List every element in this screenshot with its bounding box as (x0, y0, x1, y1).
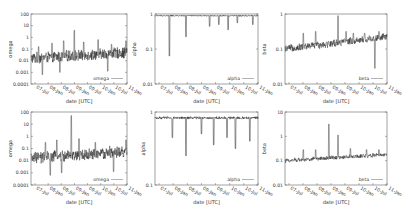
x-tick-label: 10-Jan (360, 186, 375, 198)
y-axis-label: beta (261, 143, 267, 154)
panel-top-alpha: 10.10.0107-Jul08-Jan08-Jul09-Jan09-Jul10… (131, 12, 274, 104)
x-tick-label: 07-Jul (36, 85, 50, 96)
svg-text:beta: beta (359, 76, 370, 81)
y-tick-label: 0.1 (276, 158, 283, 163)
x-tick-label: 09-Jul (346, 186, 360, 197)
panel-top-omega: 1001010.10.010.0010.000107-Jul08-Jan08-J… (7, 12, 143, 104)
svg-text:omega: omega (93, 177, 109, 182)
y-tick-label: 0.1 (276, 47, 283, 52)
svg-text:beta: beta (359, 177, 370, 182)
y-tick-label: 1 (280, 12, 283, 17)
y-tick-label: 1 (280, 134, 283, 139)
x-tick-label: 08-Jan (304, 186, 319, 198)
x-tick-label: 08-Jul (318, 186, 332, 197)
x-tick-label: 08-Jan (174, 186, 189, 198)
y-tick-label: 10 (23, 122, 29, 127)
plot-frame (31, 112, 127, 185)
y-tick-label: 0.1 (146, 47, 153, 52)
x-tick-label: 08-Jul (188, 85, 202, 96)
y-tick-label: 0.01 (273, 82, 283, 87)
series-alpha (155, 15, 258, 56)
x-tick-label: 07-Jul (290, 85, 304, 96)
x-tick-label: 09-Jul (216, 85, 230, 96)
series-omega (31, 116, 127, 176)
x-tick-label: 10-Jul (374, 85, 388, 96)
y-tick-label: 100 (20, 12, 29, 17)
x-axis-label: date [UTC] (66, 199, 93, 205)
x-axis-label: date [UTC] (323, 199, 350, 205)
plot-frame (155, 14, 258, 84)
x-tick-label: 10-Jul (244, 186, 258, 197)
x-tick-label: 11-Jan (259, 186, 274, 198)
svg-text:omega: omega (93, 76, 109, 81)
y-tick-label: 0.01 (19, 58, 29, 63)
y-tick-label: 10 (277, 110, 283, 115)
y-tick-label: 0.1 (22, 47, 29, 52)
y-axis-label: omega (7, 140, 14, 157)
y-axis-label: beta (261, 43, 267, 54)
x-tick-label: 09-Jan (332, 85, 347, 97)
panel-bottom-beta: 1010.10.0107-Jul08-Jan08-Jul09-Jan09-Jul… (261, 110, 403, 205)
y-tick-label: 1 (150, 110, 153, 115)
y-tick-label: 0.1 (22, 146, 29, 151)
x-tick-label: 08-Jul (62, 85, 76, 96)
y-tick-label: 0.0001 (13, 183, 29, 188)
x-axis-label: date [UTC] (193, 199, 220, 205)
x-axis-label: date [UTC] (193, 98, 220, 104)
panel-top-beta: 10.10.0107-Jul08-Jan08-Jul09-Jan09-Jul10… (261, 12, 403, 104)
x-tick-label: 11-Jan (259, 85, 274, 97)
legend: alpha (227, 76, 254, 81)
y-tick-label: 100 (20, 110, 29, 115)
y-tick-label: 0.001 (16, 170, 29, 175)
plot-frame (31, 14, 127, 84)
x-tick-label: 10-Jan (360, 85, 375, 97)
legend: alpha (227, 177, 254, 182)
x-tick-label: 07-Jul (160, 186, 174, 197)
x-tick-label: 09-Jan (202, 186, 217, 198)
y-tick-label: 0.01 (19, 158, 29, 163)
x-tick-label: 11-Jan (388, 186, 403, 198)
x-tick-label: 08-Jul (62, 186, 76, 197)
x-axis-label: date [UTC] (323, 98, 350, 104)
x-tick-label: 10-Jul (244, 85, 258, 96)
x-tick-label: 09-Jan (75, 85, 90, 97)
y-axis-label: omega (7, 40, 14, 57)
x-tick-label: 08-Jan (174, 85, 189, 97)
x-tick-label: 08-Jan (304, 85, 319, 97)
series-beta (285, 124, 387, 163)
y-axis-label: alpha (140, 142, 147, 156)
y-axis-label: alpha (131, 42, 138, 56)
x-tick-label: 10-Jul (374, 186, 388, 197)
plot-frame (155, 112, 258, 185)
figure: 1001010.10.010.0010.000107-Jul08-Jan08-J… (0, 0, 408, 214)
x-tick-label: 10-Jan (101, 85, 116, 97)
panel-bottom-omega: 1001010.10.010.0010.000107-Jul08-Jan08-J… (7, 110, 143, 205)
x-tick-label: 09-Jul (88, 186, 102, 197)
x-tick-label: 11-Jan (388, 85, 403, 97)
x-axis-label: date [UTC] (66, 98, 93, 104)
svg-text:alpha: alpha (227, 177, 240, 182)
x-tick-label: 10-Jan (230, 85, 245, 97)
y-tick-label: 0.001 (16, 70, 29, 75)
x-tick-label: 09-Jan (202, 85, 217, 97)
y-tick-label: 0.1 (146, 183, 153, 188)
x-tick-label: 09-Jul (88, 85, 102, 96)
x-tick-label: 07-Jul (160, 85, 174, 96)
x-tick-label: 11-Jan (128, 85, 143, 97)
x-tick-label: 09-Jul (346, 85, 360, 96)
x-tick-label: 10-Jan (230, 186, 245, 198)
legend: beta (359, 76, 383, 81)
panel-bottom-alpha: 10.107-Jul08-Jan08-Jul09-Jan09-Jul10-Jan… (140, 110, 274, 205)
series-beta (285, 16, 387, 69)
x-tick-label: 07-Jul (36, 186, 50, 197)
y-tick-label: 0.01 (273, 183, 283, 188)
plot-frame (285, 112, 387, 185)
x-tick-label: 08-Jul (188, 186, 202, 197)
x-tick-label: 09-Jan (332, 186, 347, 198)
y-tick-label: 1 (26, 134, 29, 139)
y-tick-label: 0.0001 (13, 82, 29, 87)
x-tick-label: 09-Jul (216, 186, 230, 197)
legend: omega (93, 76, 123, 81)
x-tick-label: 08-Jan (49, 85, 64, 97)
y-tick-label: 1 (26, 35, 29, 40)
